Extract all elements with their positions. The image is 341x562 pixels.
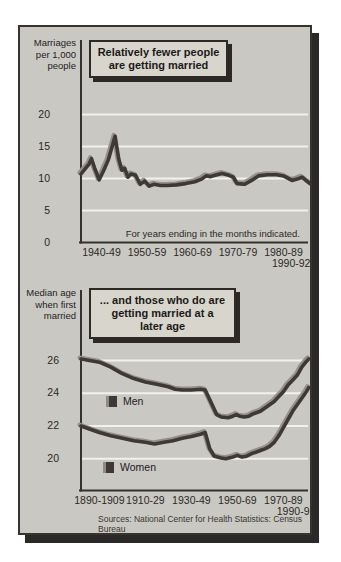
y-tick-label: 20 [20,452,59,464]
marriages-title-box: Relatively fewer people are getting marr… [89,40,228,78]
men-series-line [81,359,309,418]
y-tick-label: 15 [20,140,50,152]
y-tick-label: 20 [20,108,50,120]
men-series-line [80,358,308,417]
x-tick-label: 1990-92 [272,257,311,269]
legend-women: Women [103,461,156,473]
y-tick-label: 0 [20,236,50,248]
x-tick-label: 1960-69 [173,246,212,258]
men-series-swatch [106,396,117,407]
marriage-infographic: Marriages per 1,000 people Relatively fe… [0,0,341,562]
y-tick-label: 22 [20,419,59,431]
x-tick-label: 1930-49 [172,494,211,506]
median-age-title-box: ... and those who do are getting married… [89,288,236,339]
x-tick-label: 1950-69 [218,494,257,506]
charts-svg [20,27,310,533]
chart-panel: Marriages per 1,000 people Relatively fe… [18,25,312,535]
women-series-swatch [103,462,114,473]
y-tick-label: 10 [20,172,50,184]
legend-men-label: Men [123,395,143,407]
legend-men: Men [106,395,143,407]
axis-note: For years ending in the months indicated… [126,228,300,239]
x-tick-label: 1990-91 [277,505,316,517]
x-tick-label: 1910-29 [126,494,165,506]
x-tick-label: 1950-59 [128,246,167,258]
y-tick-label: 24 [20,386,59,398]
marriages-y-axis-label: Marriages per 1,000 people [20,37,76,72]
median-age-y-axis-label: Median age when first married [20,287,76,322]
y-tick-label: 26 [20,354,59,366]
legend-women-label: Women [120,461,156,473]
y-tick-label: 5 [20,204,50,216]
x-tick-label: 1970-79 [219,246,258,258]
sources-note: Sources: National Center for Health Stat… [98,514,310,534]
x-tick-label: 1890-1909 [74,494,124,506]
x-tick-label: 1940-49 [82,246,121,258]
